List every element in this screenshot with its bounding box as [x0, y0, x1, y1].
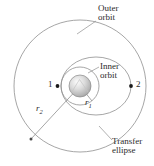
outer-orbit-label: Outer orbit	[98, 4, 119, 23]
transfer-ellipse-leader-line	[99, 126, 112, 140]
point-1-marker	[56, 84, 60, 88]
point-2-label: 2	[136, 80, 141, 89]
transfer-ellipse-label-line2: ellipse	[112, 146, 142, 155]
point-2-marker	[129, 84, 133, 88]
r2-label: r2	[36, 104, 43, 116]
r2-label-subscript: 2	[40, 108, 43, 115]
outer-orbit-label-line2: orbit	[98, 13, 119, 22]
r1-label-subscript: 1	[89, 102, 92, 109]
r1-label: r1	[85, 98, 92, 110]
central-body-sphere	[69, 75, 91, 97]
inner-orbit-label: Inner orbit	[100, 62, 119, 81]
transfer-ellipse-label: Transfer ellipse	[112, 137, 142, 156]
hohmann-transfer-diagram: Outer orbit Inner orbit Transfer ellipse…	[0, 0, 154, 166]
inner-orbit-label-line2: orbit	[100, 71, 119, 80]
r2-endpoint-marker	[30, 138, 33, 141]
point-1-label: 1	[48, 80, 53, 89]
outer-orbit-leader-line	[77, 21, 96, 34]
